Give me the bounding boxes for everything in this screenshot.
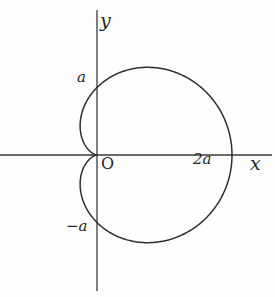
x-tick-label-2a: 2a xyxy=(193,152,212,167)
y-tick-label-negative-a: −a xyxy=(66,219,88,234)
origin-label: O xyxy=(101,156,114,172)
x-axis-label: x xyxy=(250,154,261,173)
y-tick-label-a: a xyxy=(77,70,86,85)
figure-canvas: y x O a −a 2a xyxy=(0,0,275,297)
cardioid-diagram xyxy=(0,0,275,297)
y-axis-label: y xyxy=(100,11,111,30)
